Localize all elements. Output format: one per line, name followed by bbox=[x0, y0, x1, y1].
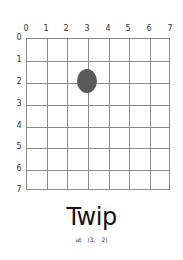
character-name: Twip bbox=[0, 203, 183, 231]
caption-prefix: at bbox=[75, 236, 81, 243]
row-label: 4 bbox=[15, 121, 23, 130]
grid-line-horizontal bbox=[27, 105, 169, 106]
grid-line-horizontal bbox=[27, 83, 169, 84]
grid-line-horizontal bbox=[27, 61, 169, 62]
grid-line-horizontal bbox=[27, 170, 169, 171]
game-board: 01234567 01234567 bbox=[0, 0, 183, 200]
row-label: 1 bbox=[15, 55, 23, 64]
caption-x: (3, bbox=[87, 236, 95, 243]
row-label: 7 bbox=[15, 185, 23, 194]
twip-piece[interactable] bbox=[77, 69, 97, 93]
column-label: 6 bbox=[144, 24, 154, 33]
row-label: 3 bbox=[15, 99, 23, 108]
column-label: 2 bbox=[61, 24, 71, 33]
grid[interactable] bbox=[26, 38, 170, 190]
caption-y: 2) bbox=[101, 236, 107, 243]
grid-line-horizontal bbox=[27, 148, 169, 149]
row-label: 0 bbox=[15, 33, 23, 42]
column-label: 3 bbox=[82, 24, 92, 33]
row-label: 2 bbox=[15, 77, 23, 86]
column-label: 1 bbox=[41, 24, 51, 33]
grid-line-horizontal bbox=[27, 127, 169, 128]
position-caption: at (3, 2) bbox=[0, 236, 183, 243]
column-label: 7 bbox=[165, 24, 175, 33]
column-label: 4 bbox=[103, 24, 113, 33]
row-label: 6 bbox=[15, 164, 23, 173]
column-label: 5 bbox=[123, 24, 133, 33]
column-label: 0 bbox=[21, 24, 31, 33]
row-label: 5 bbox=[15, 142, 23, 151]
